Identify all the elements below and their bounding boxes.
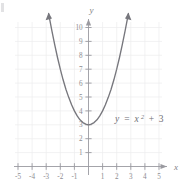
x-tick-label: -4 (29, 173, 35, 181)
x-tick-label: 3 (129, 173, 133, 181)
equation-exponent: 2 (141, 113, 144, 120)
y-axis-label: y (89, 5, 94, 15)
y-tick-labels: 1 2 3 4 5 6 7 8 9 10 (75, 24, 83, 157)
y-tick-label: 7 (79, 66, 83, 74)
equation-constant: 3 (159, 114, 164, 124)
y-tick-label: 4 (79, 108, 83, 116)
x-tick-label: 2 (115, 173, 119, 181)
graph-figure: -5 -4 -3 -2 -1 1 2 3 4 5 1 2 3 4 5 6 7 8… (0, 0, 187, 189)
curve-left-arrow-icon (46, 12, 52, 20)
equation-label: y = x 2 + 3 (114, 111, 164, 124)
x-axis-label: x (173, 162, 178, 172)
coordinate-plane-svg: -5 -4 -3 -2 -1 1 2 3 4 5 1 2 3 4 5 6 7 8… (0, 0, 187, 189)
y-tick-label: 5 (79, 94, 83, 102)
curve-right-arrow-icon (125, 12, 131, 20)
x-tick-label: 1 (101, 173, 105, 181)
x-tick-label: -2 (57, 173, 63, 181)
y-tick-label: 10 (75, 24, 83, 32)
y-tick-label: 8 (79, 52, 83, 60)
x-tick-label: -1 (71, 173, 77, 181)
x-tick-label: -3 (43, 173, 49, 181)
equation-base: x (134, 114, 140, 124)
equation-lhs: y (114, 114, 120, 124)
y-axis-arrow-icon (86, 19, 91, 26)
y-tick-label: 9 (79, 38, 83, 46)
equation-plus: + (149, 114, 154, 124)
y-tick-label: 1 (79, 149, 83, 157)
y-tick-label: 6 (79, 80, 83, 88)
x-tick-label: -5 (15, 173, 21, 181)
x-axis-arrow-icon (161, 164, 168, 169)
equation-equals: = (124, 114, 129, 124)
x-tick-label: 5 (157, 173, 161, 181)
x-tick-label: 4 (143, 173, 147, 181)
y-tick-label: 2 (79, 135, 83, 143)
